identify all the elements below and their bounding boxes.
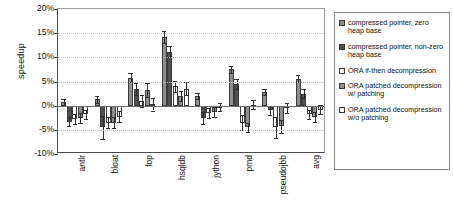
error-bar-cap xyxy=(140,95,144,96)
y-tick-label: 10% xyxy=(37,52,54,61)
error-bar-cap xyxy=(151,98,155,99)
error-bar-cap xyxy=(218,103,222,104)
error-bar xyxy=(80,113,81,123)
y-tick-mark xyxy=(54,130,58,131)
legend-swatch-icon xyxy=(339,44,345,50)
legend-swatch-icon xyxy=(339,68,345,74)
error-bar xyxy=(309,110,310,120)
y-tick-label: 15% xyxy=(37,28,54,37)
error-bar xyxy=(181,91,182,102)
error-bar xyxy=(86,110,87,119)
x-tick-label: pseudojbb xyxy=(279,155,288,194)
bar xyxy=(167,52,172,106)
error-bar-cap xyxy=(184,82,188,83)
gridline xyxy=(58,130,324,131)
error-bar-cap xyxy=(117,111,121,112)
error-bar-cap xyxy=(218,111,222,112)
error-bar-cap xyxy=(212,117,216,118)
error-bar-cap xyxy=(313,122,317,123)
x-tick-label: jython xyxy=(212,155,221,178)
error-bar-cap xyxy=(162,31,166,32)
error-bar-cap xyxy=(78,113,82,114)
error-bar xyxy=(304,89,305,98)
error-bar-cap xyxy=(84,119,88,120)
error-bar-cap xyxy=(246,123,250,124)
error-bar-cap xyxy=(234,79,238,80)
error-bar-cap xyxy=(285,113,289,114)
zero-line xyxy=(58,106,324,107)
plot-area: speedup 20%15%10%5%0%-5%-10% antlrbloatf… xyxy=(0,8,330,213)
error-bar-cap xyxy=(67,117,71,118)
error-bar xyxy=(203,112,204,124)
error-bar-cap xyxy=(262,95,266,96)
error-bar-cap xyxy=(307,110,311,111)
error-bar-cap xyxy=(95,103,99,104)
error-bar-cap xyxy=(117,122,121,123)
error-bar-cap xyxy=(251,100,255,101)
y-tick-mark xyxy=(54,9,58,10)
x-tick-label: pmd xyxy=(245,155,254,172)
error-bar-cap xyxy=(201,112,205,113)
error-bar xyxy=(270,106,271,116)
error-bar-cap xyxy=(128,73,132,74)
error-bar-cap xyxy=(318,114,322,115)
error-bar xyxy=(136,83,137,95)
legend-item[interactable]: compressed pointer, non-zero heap base xyxy=(339,43,445,60)
error-bar-cap xyxy=(134,83,138,84)
error-bar-cap xyxy=(61,99,65,100)
error-bar-cap xyxy=(274,117,278,118)
error-bar-cap xyxy=(95,96,99,97)
error-bar-cap xyxy=(73,114,77,115)
y-tick-label: 5% xyxy=(42,76,54,85)
error-bar-cap xyxy=(179,101,183,102)
error-bar-cap xyxy=(229,73,233,74)
error-bar-cap xyxy=(279,120,283,121)
error-bar-cap xyxy=(145,97,149,98)
chart-figure: speedup 20%15%10%5%0%-5%-10% antlrbloatf… xyxy=(0,0,453,219)
error-bar-cap xyxy=(285,103,289,104)
error-bar-cap xyxy=(207,108,211,109)
chart-legend: compressed pointer, zero heap basecompre… xyxy=(334,12,450,170)
error-bar xyxy=(69,117,70,127)
error-bar-cap xyxy=(246,132,250,133)
legend-item[interactable]: compressed pointer, zero heap base xyxy=(339,19,445,36)
error-bar-cap xyxy=(106,117,110,118)
error-bar-cap xyxy=(145,83,149,84)
error-bar xyxy=(276,117,277,138)
error-bar xyxy=(153,98,154,111)
legend-label: ORA patched decompression w/ patching xyxy=(348,82,445,99)
error-bar-cap xyxy=(173,92,177,93)
error-bar-cap xyxy=(301,98,305,99)
bar xyxy=(162,37,167,106)
y-tick-mark xyxy=(54,106,58,107)
legend-swatch-icon xyxy=(339,107,345,113)
error-bar-cap xyxy=(140,107,144,108)
y-tick-label: -5% xyxy=(39,125,54,134)
error-bar-cap xyxy=(100,116,104,117)
gridline xyxy=(58,82,324,83)
error-bar-cap xyxy=(112,117,116,118)
legend-item[interactable]: ORA patched decompression w/ patching xyxy=(339,82,445,99)
error-bar-cap xyxy=(268,115,272,116)
error-bar-cap xyxy=(251,109,255,110)
bar xyxy=(229,69,234,105)
error-bar-cap xyxy=(229,66,233,67)
y-tick-mark xyxy=(54,82,58,83)
error-bar-cap xyxy=(234,89,238,90)
legend-item[interactable]: ORA patched decompression w/o patching xyxy=(339,106,445,123)
legend-label: ORA if-then decompression xyxy=(348,67,436,75)
error-bar xyxy=(214,107,215,117)
error-bar xyxy=(108,117,109,128)
error-bar xyxy=(315,112,316,122)
y-tick-mark xyxy=(54,33,58,34)
y-tick-label: -10% xyxy=(34,149,54,158)
x-axis-tick-labels: antlrbloatfophsqldbjythonpmdpseudojbbavg xyxy=(57,155,325,213)
error-bar xyxy=(147,83,148,97)
error-bar-cap xyxy=(179,91,183,92)
error-bar xyxy=(209,108,210,118)
error-bar-cap xyxy=(112,128,116,129)
legend-item[interactable]: ORA if-then decompression xyxy=(339,67,445,75)
legend-swatch-icon xyxy=(339,83,345,89)
error-bar-cap xyxy=(151,111,155,112)
error-bar xyxy=(231,66,232,74)
